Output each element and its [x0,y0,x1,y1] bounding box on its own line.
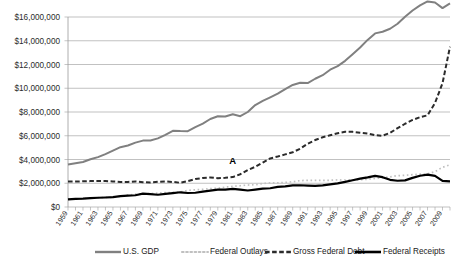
y-axis-tick-label: $4,000,000 [19,156,60,165]
chart-container: $0$2,000,000$4,000,000$6,000,000$8,000,0… [0,0,459,268]
legend-label-4: Federal Receipts [383,247,445,256]
y-axis-tick-label: $12,000,000 [14,61,60,70]
legend-label-2: Federal Outlays [210,247,268,256]
y-axis-tick-label: $14,000,000 [14,37,60,46]
y-axis-tick-label: $0 [51,203,61,212]
y-axis-labels: $0$2,000,000$4,000,000$6,000,000$8,000,0… [14,13,60,212]
y-axis-tick-label: $2,000,000 [19,179,60,188]
annotation-label: A [229,155,236,166]
legend-label-1: U.S. GDP [123,247,159,256]
line-chart: $0$2,000,000$4,000,000$6,000,000$8,000,0… [0,0,459,268]
y-axis-tick-label: $8,000,000 [19,108,60,117]
y-axis-tick-label: $16,000,000 [14,13,60,22]
y-axis-tick-label: $10,000,000 [14,84,60,93]
y-axis-tick-label: $6,000,000 [19,132,60,141]
chart-annotations: A [229,155,236,166]
legend-label-3: Gross Federal Debt [293,247,365,256]
